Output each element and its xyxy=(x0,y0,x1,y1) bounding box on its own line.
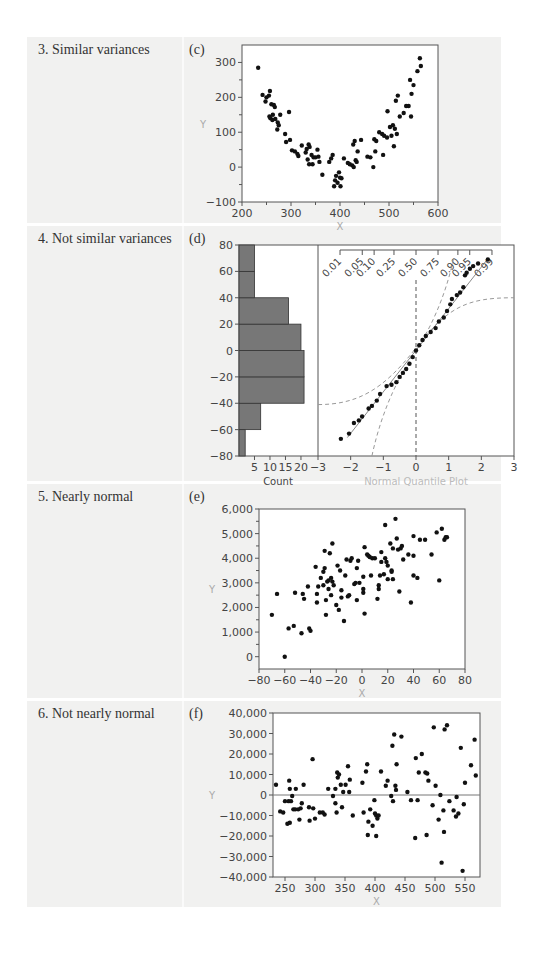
data-point xyxy=(366,819,370,823)
data-point xyxy=(397,375,401,379)
data-point xyxy=(424,334,428,338)
x-tick-label: 600 xyxy=(428,207,449,220)
data-point xyxy=(353,581,357,585)
data-point xyxy=(333,801,337,805)
data-point xyxy=(382,572,386,576)
data-point xyxy=(399,734,403,738)
data-point xyxy=(386,563,390,567)
x-tick-label: 5 xyxy=(251,461,258,474)
data-point xyxy=(417,770,421,774)
data-point xyxy=(434,530,438,534)
data-point xyxy=(263,99,267,103)
data-point xyxy=(414,348,418,352)
y-tick-label: 20 xyxy=(219,318,233,331)
data-point xyxy=(433,326,437,330)
count-axis-label: Count xyxy=(263,476,293,487)
data-point xyxy=(281,810,285,814)
data-point xyxy=(396,93,400,97)
data-point xyxy=(469,763,473,767)
data-point xyxy=(420,752,424,756)
x-axis-label: X xyxy=(373,896,380,907)
data-point xyxy=(330,153,334,157)
data-point xyxy=(328,551,332,555)
data-point xyxy=(313,816,317,820)
data-point xyxy=(299,631,303,635)
histogram-bar xyxy=(239,377,304,403)
x-tick-label: 1 xyxy=(445,461,452,474)
data-point xyxy=(430,803,434,807)
data-point xyxy=(402,111,406,115)
data-point xyxy=(307,818,311,822)
data-point xyxy=(379,550,383,554)
y-axis-label: Y xyxy=(208,790,216,801)
data-point xyxy=(326,787,330,791)
data-point xyxy=(393,517,397,521)
data-point xyxy=(310,757,314,761)
x-tick-label: 250 xyxy=(275,882,296,895)
x-tick-label: 20 xyxy=(294,461,308,474)
histogram-quantile-chart-d: −80−60−40−200204060805101520Count−3−2−10… xyxy=(210,239,518,487)
data-point xyxy=(343,783,347,787)
data-point xyxy=(418,538,422,542)
data-point xyxy=(305,157,309,161)
data-point xyxy=(395,536,399,540)
x-tick-label: 400 xyxy=(365,882,386,895)
data-point xyxy=(411,355,415,359)
data-point xyxy=(334,174,338,178)
data-point xyxy=(302,597,306,601)
data-point xyxy=(311,806,315,810)
data-point xyxy=(289,799,293,803)
data-point xyxy=(333,787,337,791)
data-point xyxy=(397,589,401,593)
y-tick-label: 100 xyxy=(215,126,236,139)
data-point xyxy=(448,302,452,306)
data-point xyxy=(284,140,288,144)
x-tick-label: 60 xyxy=(432,674,446,687)
data-point xyxy=(322,812,326,816)
data-point xyxy=(420,338,424,342)
data-point xyxy=(339,783,343,787)
y-tick-label: 20,000 xyxy=(229,748,268,761)
data-point xyxy=(406,104,410,108)
data-point xyxy=(384,384,388,388)
data-point xyxy=(355,566,359,570)
y-tick-label: −20,000 xyxy=(219,830,267,843)
x-tick-label: −20 xyxy=(325,674,348,687)
data-point xyxy=(386,577,390,581)
histogram-bar xyxy=(239,271,254,297)
data-point xyxy=(347,431,351,435)
y-tick-label: 6,000 xyxy=(222,503,254,516)
data-point xyxy=(275,592,279,596)
data-point xyxy=(308,629,312,633)
data-point xyxy=(439,860,443,864)
x-tick-label: 500 xyxy=(425,882,446,895)
data-point xyxy=(283,132,287,136)
data-point xyxy=(456,811,460,815)
data-point xyxy=(355,598,359,602)
y-tick-label: 4,000 xyxy=(222,552,254,565)
data-point xyxy=(379,769,383,773)
data-point xyxy=(377,583,381,587)
data-point xyxy=(316,154,320,158)
data-point xyxy=(322,549,326,553)
data-point xyxy=(409,600,413,604)
data-point xyxy=(288,138,292,142)
data-point xyxy=(389,570,393,574)
data-point xyxy=(409,798,413,802)
data-point xyxy=(460,869,464,873)
y-tick-label: −20 xyxy=(210,371,233,384)
data-point xyxy=(315,147,319,151)
data-point xyxy=(411,573,415,577)
histogram-bar xyxy=(239,245,254,271)
x-tick-label: 80 xyxy=(458,674,472,687)
data-point xyxy=(298,806,302,810)
data-point xyxy=(270,613,274,617)
data-point xyxy=(385,135,389,139)
x-tick-label: −2 xyxy=(343,461,359,474)
data-point xyxy=(393,127,397,131)
data-point xyxy=(360,414,364,418)
data-point xyxy=(464,270,468,274)
y-tick-label: −10,000 xyxy=(219,810,267,823)
data-point xyxy=(274,783,278,787)
data-point xyxy=(286,626,290,630)
